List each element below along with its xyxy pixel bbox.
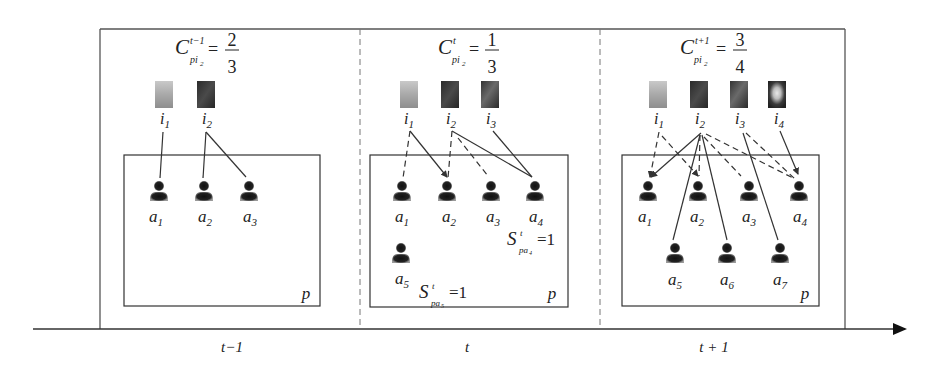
- agent-label-a3: a3: [486, 207, 501, 228]
- agent-label-a7: a7: [773, 270, 788, 291]
- formula-c-t: C t pi 2 = 1 3: [438, 30, 499, 77]
- svg-text:=1: =1: [449, 283, 467, 302]
- image-label-i2: i2: [446, 110, 456, 130]
- svg-text:3: 3: [488, 57, 497, 77]
- svg-text:pi: pi: [693, 54, 702, 65]
- agent-label-a5: a5: [395, 269, 410, 290]
- formula-c-t-plus-1: C t+1 pi 2 = 3 4: [680, 30, 747, 77]
- image-thumbnail-i1: [400, 81, 418, 108]
- image-label-i2: i2: [695, 110, 705, 130]
- image-thumbnail-i4: [768, 81, 786, 108]
- page-label-p: p: [547, 284, 557, 303]
- agent-label-a2: a2: [198, 207, 213, 228]
- svg-text:2: 2: [704, 60, 708, 68]
- page-label-p: p: [301, 284, 311, 303]
- image-label-i1: i1: [160, 110, 170, 130]
- agent-icon-a5: [392, 243, 410, 263]
- svg-text:t: t: [432, 281, 435, 291]
- svg-text:t: t: [453, 35, 456, 46]
- svg-text:2: 2: [228, 30, 237, 50]
- svg-text:2: 2: [200, 60, 204, 68]
- image-thumbnail-i1: [155, 81, 173, 108]
- svg-text:=: =: [469, 39, 479, 59]
- svg-text:3: 3: [736, 30, 745, 50]
- panel-t: C t pi 2 = 1 3 i1 i2 i3 p a1: [370, 30, 568, 309]
- svg-text:=: =: [208, 39, 218, 59]
- time-label-t-plus-1: t + 1: [699, 339, 728, 355]
- agent-label-a4: a4: [793, 207, 808, 228]
- image-thumbnail-i2: [690, 81, 708, 108]
- time-label-t: t: [465, 339, 470, 355]
- svg-text:2: 2: [462, 60, 466, 68]
- svg-text:3: 3: [228, 57, 237, 77]
- agent-icon-a2: [195, 181, 213, 201]
- svg-text:C: C: [680, 35, 695, 59]
- image-thumbnail-i3: [730, 81, 748, 108]
- svg-text:C: C: [175, 35, 190, 59]
- formula-c-t-minus-1: C t−1 pi 2 = 2 3: [175, 30, 239, 77]
- time-label-t-minus-1: t−1: [221, 339, 243, 355]
- agent-label-a4: a4: [529, 207, 544, 228]
- page-box-p: [124, 155, 320, 306]
- svg-text:t−1: t−1: [190, 35, 205, 46]
- svg-text:4: 4: [736, 57, 745, 77]
- image-label-i3: i3: [486, 110, 496, 130]
- annotation-s-pa5: S t pa 5 =1: [419, 281, 467, 309]
- svg-text:pa: pa: [430, 298, 441, 308]
- panel-t-plus-1: C t+1 pi 2 = 3 4 i1 i2 i3 i4 p: [622, 30, 819, 306]
- image-label-i4: i4: [774, 110, 784, 130]
- image-label-i1: i1: [654, 110, 664, 130]
- agent-icon-a5: [666, 243, 684, 263]
- svg-text:S: S: [419, 281, 429, 302]
- svg-text:4: 4: [529, 250, 532, 256]
- annotation-s-pa4: S t pa 4 =1: [507, 228, 555, 256]
- agent-icon-a1: [393, 181, 411, 201]
- svg-text:S: S: [507, 228, 517, 249]
- agent-label-a1: a1: [149, 207, 163, 228]
- svg-text:=1: =1: [537, 230, 555, 249]
- image-thumbnail-i2: [441, 81, 459, 108]
- agent-icon-a2: [438, 181, 456, 201]
- agent-icon-a7: [771, 243, 789, 263]
- image-thumbnail-i1: [649, 81, 667, 108]
- agent-icon-a3: [240, 181, 258, 201]
- agent-label-a6: a6: [720, 270, 735, 291]
- svg-text:C: C: [438, 35, 453, 59]
- page-label-p: p: [800, 284, 810, 303]
- agent-icon-a6: [718, 243, 736, 263]
- agent-icon-a4: [526, 181, 544, 201]
- agent-icon-a3: [482, 181, 500, 201]
- edges: [650, 131, 798, 240]
- svg-text:pi: pi: [451, 54, 460, 65]
- agent-icon-a4: [790, 181, 808, 201]
- svg-text:t: t: [520, 228, 523, 238]
- svg-text:1: 1: [488, 30, 497, 50]
- svg-text:t+1: t+1: [695, 35, 710, 46]
- agent-label-a1: a1: [638, 207, 652, 228]
- svg-text:pi: pi: [189, 54, 198, 65]
- image-label-i2: i2: [202, 110, 212, 130]
- agent-icon-a1: [150, 181, 168, 201]
- panel-t-minus-1: C t−1 pi 2 = 2 3 i1 i2 p a1 a2 a3: [124, 30, 320, 306]
- agent-label-a5: a5: [668, 270, 683, 291]
- image-label-i3: i3: [735, 110, 745, 130]
- agent-label-a2: a2: [442, 207, 457, 228]
- agent-label-a2: a2: [690, 207, 705, 228]
- image-thumbnail-i2: [197, 81, 215, 108]
- svg-text:=: =: [716, 39, 726, 59]
- image-thumbnail-i3: [481, 81, 499, 108]
- timeline-diagram: t−1 t t + 1 C t−1 pi 2 = 2 3 i1 i2 p a1 …: [0, 0, 935, 377]
- svg-text:pa: pa: [518, 245, 529, 255]
- svg-text:5: 5: [441, 303, 444, 309]
- agent-label-a3: a3: [742, 207, 757, 228]
- agent-label-a1: a1: [395, 207, 409, 228]
- agent-label-a3: a3: [243, 207, 258, 228]
- agent-icon-a3: [740, 181, 758, 201]
- agent-icon-a2: [689, 181, 707, 201]
- image-label-i1: i1: [404, 110, 414, 130]
- agent-icon-a1: [639, 181, 657, 201]
